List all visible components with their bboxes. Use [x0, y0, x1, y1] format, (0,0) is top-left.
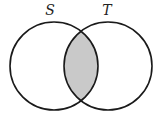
set-s-label: S: [45, 2, 55, 18]
set-t-label: T: [102, 2, 113, 18]
venn-diagram: S T: [0, 0, 157, 117]
